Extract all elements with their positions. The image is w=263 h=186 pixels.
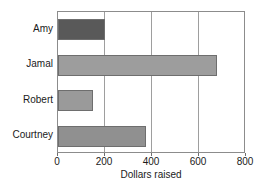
category-label: Amy [0, 24, 53, 34]
x-axis-title: Dollars raised [57, 170, 245, 180]
x-axis-ticks: 0200400600800 [57, 153, 245, 169]
category-label: Courtney [0, 130, 53, 140]
bar [58, 90, 93, 111]
bar-slot [58, 83, 246, 119]
bar-slot [58, 48, 246, 84]
tick-label: 0 [54, 157, 60, 167]
tick-label: 200 [96, 157, 113, 167]
bar [58, 19, 105, 40]
category-axis-labels: AmyJamalRobertCourtney [0, 11, 53, 153]
category-label: Jamal [0, 59, 53, 69]
category-label: Robert [0, 95, 53, 105]
tick-label: 600 [190, 157, 207, 167]
plot-area [57, 11, 245, 153]
bar [58, 55, 217, 76]
bar-chart: AmyJamalRobertCourtney 0200400600800 Dol… [0, 0, 263, 186]
bar-slot [58, 12, 246, 48]
tick-label: 800 [237, 157, 254, 167]
bar [58, 126, 146, 147]
bar-slot [58, 119, 246, 155]
tick-label: 400 [143, 157, 160, 167]
